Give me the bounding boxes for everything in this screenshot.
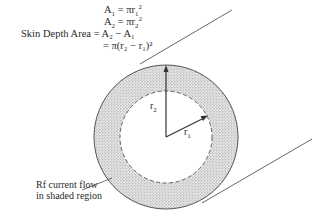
equation-skin-depth-expanded: = π(r₂ − r₁)² [103, 40, 152, 51]
eq-a1-rhs: = πr [118, 4, 135, 15]
r1-label: r1 [184, 126, 191, 137]
eq-a1-rhs-sup: 2 [139, 3, 143, 11]
eq-skin-depth-rhs: = A₂ − A₁ [94, 28, 135, 39]
r2-label: r2 [150, 100, 157, 111]
equation-a1: A1 = πr12 [104, 4, 142, 15]
r1-arrowhead-icon [201, 116, 209, 122]
eq-a2-lhs: A [104, 16, 112, 27]
r1-label-sub: 1 [187, 132, 191, 140]
conductor-upper-edge [140, 10, 232, 64]
eq-a2-rhs-sup: 2 [139, 15, 143, 23]
eq-expanded-rhs: = π(r₂ − r₁)² [103, 40, 152, 51]
eq-skin-depth-lhs: Skin Depth Area [21, 28, 91, 39]
r2-label-sub: 2 [153, 106, 157, 114]
equation-skin-depth-area: Skin Depth Area = A₂ − A₁ [21, 28, 135, 39]
callout-line-2: in shaded region [36, 190, 102, 201]
callout-line-1: Rf current flow [36, 179, 102, 190]
rf-current-callout: Rf current flow in shaded region [36, 179, 102, 201]
eq-a2-rhs-sub: 2 [135, 22, 139, 30]
eq-a2-rhs: = πr [118, 16, 135, 27]
eq-a1-lhs: A [104, 4, 112, 15]
equation-a2: A2 = πr22 [104, 16, 142, 27]
